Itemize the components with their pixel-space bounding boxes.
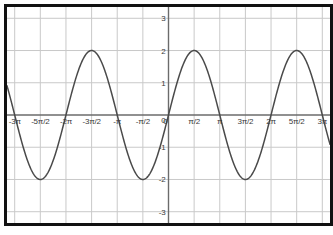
plot-frame: -3π-5π/2-2π-3π/2-π-π/20π/2π3π/22π5π/23π … (4, 4, 333, 226)
y-tick-label: 0 (153, 116, 166, 125)
y-tick-label: 1 (153, 78, 166, 87)
x-tick-label: 3π/2 (237, 117, 253, 126)
x-tick-label: -3π/2 (82, 117, 100, 126)
x-tick-label: -π (113, 117, 121, 126)
y-tick-label: -1 (153, 143, 166, 152)
x-tick-label: 3π (318, 117, 328, 126)
y-tick-label: -3 (153, 207, 166, 216)
x-tick-label: -π/2 (136, 117, 150, 126)
x-tick-label: -3π (9, 117, 21, 126)
x-tick-label: 5π/2 (289, 117, 305, 126)
x-tick-label: 2π (266, 117, 276, 126)
y-tick-label: 3 (153, 14, 166, 23)
x-tick-label: π/2 (188, 117, 200, 126)
plot-canvas (7, 7, 330, 223)
x-tick-label: π (217, 117, 222, 126)
x-tick-label: -2π (60, 117, 72, 126)
y-tick-label: -2 (153, 175, 166, 184)
x-tick-label: -5π/2 (31, 117, 49, 126)
y-tick-label: 2 (153, 46, 166, 55)
